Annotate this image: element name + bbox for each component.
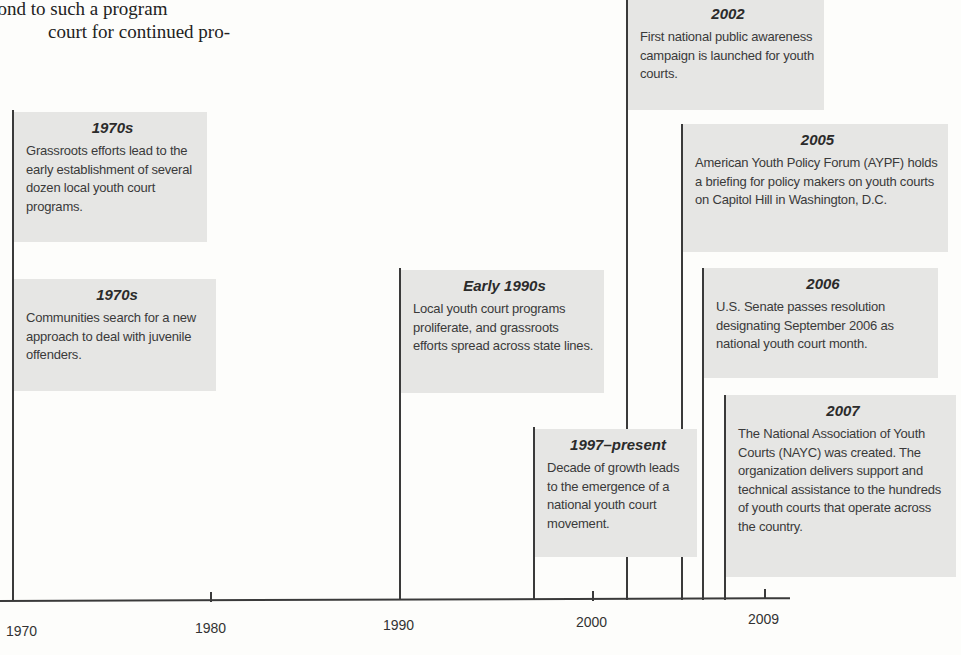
tick-label-2009: 2009 bbox=[748, 611, 779, 627]
event-box-1997-present: 1997–present Decade of growth leads to t… bbox=[535, 429, 697, 557]
tick-2000 bbox=[592, 591, 594, 601]
timeline-axis bbox=[0, 597, 790, 602]
event-title: 2005 bbox=[695, 130, 940, 150]
event-title: 1970s bbox=[26, 118, 199, 138]
event-box-early-1990s: Early 1990s Local youth court programs p… bbox=[401, 270, 604, 393]
tick-2009 bbox=[764, 589, 766, 599]
event-description: American Youth Policy Forum (AYPF) holds… bbox=[695, 154, 940, 210]
event-title: 2007 bbox=[738, 401, 948, 421]
tick-label-1990: 1990 bbox=[383, 617, 414, 633]
event-description: Local youth court programs proliferate, … bbox=[413, 300, 596, 356]
event-box-2007: 2007 The National Association of Youth C… bbox=[726, 395, 956, 577]
tick-label-1980: 1980 bbox=[195, 620, 226, 636]
prose-line-2: court for continued pro- bbox=[48, 21, 230, 43]
event-box-2006: 2006 U.S. Senate passes resolution desig… bbox=[704, 268, 938, 378]
event-title: 2002 bbox=[640, 4, 816, 24]
tick-label-2000: 2000 bbox=[576, 614, 607, 630]
event-description: Communities search for a new approach to… bbox=[26, 309, 208, 365]
event-description: U.S. Senate passes resolution designatin… bbox=[716, 298, 930, 354]
event-description: First national public awareness campaign… bbox=[640, 28, 816, 84]
event-box-2002: 2002 First national public awareness cam… bbox=[628, 0, 824, 110]
event-box-1970s-grassroots: 1970s Grassroots efforts lead to the ear… bbox=[14, 112, 207, 242]
event-description: The National Association of Youth Courts… bbox=[738, 425, 948, 536]
event-title: 1970s bbox=[26, 285, 208, 305]
event-description: Decade of growth leads to the emergence … bbox=[547, 459, 689, 533]
event-box-1970s-communities: 1970s Communities search for a new appro… bbox=[14, 279, 216, 391]
prose-line-1: pond to such a program bbox=[0, 0, 167, 20]
event-box-2005: 2005 American Youth Policy Forum (AYPF) … bbox=[683, 124, 948, 252]
event-description: Grassroots efforts lead to the early est… bbox=[26, 142, 199, 216]
tick-label-1970: 1970 bbox=[6, 623, 37, 639]
event-title: 2006 bbox=[716, 274, 930, 294]
event-title: Early 1990s bbox=[413, 276, 596, 296]
tick-1980 bbox=[210, 592, 212, 602]
event-title: 1997–present bbox=[547, 435, 689, 455]
